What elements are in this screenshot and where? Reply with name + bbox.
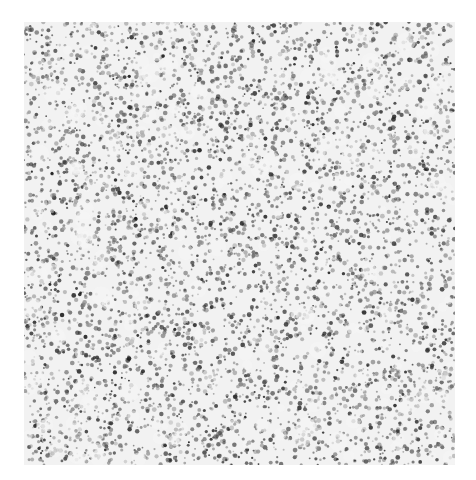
image-frame [0,0,476,480]
speckle-texture [24,22,455,465]
micrograph-image [24,22,455,465]
